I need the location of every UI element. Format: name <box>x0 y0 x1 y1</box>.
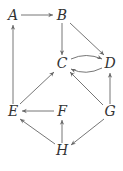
edge-c-to-d <box>71 56 102 60</box>
node-b: B <box>56 7 67 23</box>
node-e: E <box>7 103 18 119</box>
edge-b-to-d <box>70 23 104 55</box>
node-d: D <box>103 55 115 71</box>
node-f: F <box>56 103 68 119</box>
node-c: C <box>57 55 68 71</box>
directed-graph: A B C D E F G H <box>0 0 123 171</box>
edge-g-to-c <box>70 72 103 105</box>
edge-e-to-c <box>20 72 54 104</box>
edge-g-to-h <box>71 119 104 145</box>
node-a: A <box>6 7 18 23</box>
node-h: H <box>55 142 69 158</box>
edge-h-to-e <box>20 119 55 144</box>
edge-d-to-c <box>71 68 102 72</box>
node-g: G <box>104 103 115 119</box>
